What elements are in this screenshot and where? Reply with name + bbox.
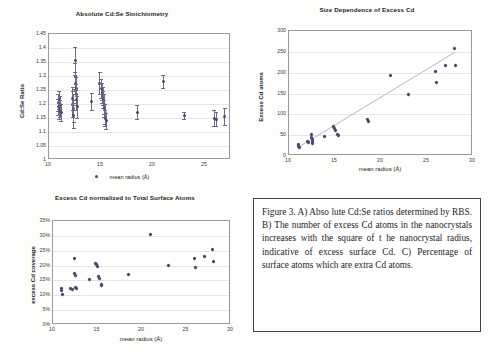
error-bar-cap: [59, 121, 63, 122]
x-axis-tick-label: 10: [285, 157, 291, 163]
error-bar-cap: [59, 104, 63, 105]
x-axis-tick-label: 20: [149, 161, 155, 167]
error-bar-cap: [103, 104, 107, 105]
chart-a-legend: mean radius (Å): [6, 173, 238, 180]
data-point: [202, 255, 206, 259]
chart-b-plot-area: 0501001502002503001015202530: [288, 30, 472, 155]
error-bar-cap: [98, 72, 102, 73]
data-point: [443, 63, 447, 67]
gridline: [53, 295, 229, 296]
error-bar-cap: [74, 77, 78, 78]
chart-panel-c: Excess Cd normalized to Total Surface At…: [6, 194, 244, 352]
data-point: [453, 63, 457, 67]
data-point: [211, 259, 215, 263]
data-point: [452, 47, 456, 51]
y-axis-tick-label: 200: [277, 69, 286, 75]
x-axis-tick-label: 30: [227, 326, 233, 332]
x-axis-tick-label: 25: [423, 157, 429, 163]
chart-a-legend-label: mean radius (Å): [110, 174, 150, 180]
data-point: [74, 287, 78, 291]
error-bar-cap: [100, 83, 104, 84]
error-bar-cap: [75, 118, 79, 119]
chart-c-y-axis-label: excess Cd coverage: [30, 234, 36, 316]
y-axis-tick-label: 1.4: [39, 44, 46, 50]
data-point: [72, 114, 75, 117]
y-axis-tick-label: 1.25: [36, 86, 46, 92]
legend-marker-icon: [95, 175, 98, 178]
error-bar-cap: [104, 113, 108, 114]
gridline: [289, 52, 471, 53]
gridline: [49, 48, 229, 49]
chart-c-title: Excess Cd normalized to Total Surface At…: [6, 194, 244, 201]
error-bar-cap: [182, 112, 186, 113]
gridline: [53, 236, 229, 237]
y-axis-tick-label: 250: [277, 48, 286, 54]
error-bar-cap: [161, 75, 165, 76]
y-axis-tick-label: 30%: [40, 232, 50, 238]
error-bar-cap: [90, 93, 94, 94]
y-axis-tick-label: 150: [277, 90, 286, 96]
figure-caption-box: Figure 3. A) Abso lute Cd:Se ratios dete…: [253, 198, 481, 332]
data-point: [105, 119, 108, 122]
chart-a-y-axis-label: Cd:Se Ratio: [19, 71, 25, 131]
x-axis-tick-label: 25: [183, 326, 189, 332]
data-point: [167, 263, 171, 267]
y-axis-tick-label: 10%: [40, 291, 50, 297]
data-point: [136, 111, 139, 114]
data-point: [388, 73, 392, 77]
error-bar-cap: [57, 91, 61, 92]
data-point: [183, 114, 186, 117]
y-axis-tick-label: 1.1: [39, 128, 46, 134]
gridline: [289, 114, 471, 115]
data-point: [297, 146, 301, 150]
data-point: [366, 119, 370, 123]
gridline: [53, 310, 229, 311]
error-bar-cap: [223, 125, 227, 126]
x-axis-tick-label: 20: [138, 326, 144, 332]
x-axis-tick-label: 10: [49, 326, 55, 332]
x-axis-tick-label: 15: [331, 157, 337, 163]
data-point: [72, 256, 76, 260]
chart-b-y-axis-label: Excess Cd atoms: [258, 61, 264, 133]
gridline: [289, 73, 471, 74]
y-axis-tick-label: 1.2: [39, 100, 46, 106]
data-point: [434, 81, 438, 85]
error-bar-cap: [101, 87, 105, 88]
gridline: [49, 132, 229, 133]
error-bar-cap: [102, 94, 106, 95]
y-axis-tick-label: 15%: [40, 276, 50, 282]
error-bar-cap: [73, 63, 77, 64]
error-bar-cap: [58, 96, 62, 97]
data-point: [76, 105, 79, 108]
data-point: [74, 59, 77, 62]
y-axis-tick-label: 25%: [40, 247, 50, 253]
data-point: [95, 265, 99, 269]
chart-b-title: Size Dependence of Excess Cd: [248, 6, 486, 13]
error-bar-cap: [74, 90, 78, 91]
chart-a-title: Absolute Cd:Se Stoichiometry: [6, 10, 238, 17]
error-bar-cap: [73, 72, 77, 73]
figure-page: Absolute Cd:Se Stoichiometry Cd:Se Ratio…: [0, 0, 490, 356]
data-point: [162, 80, 165, 83]
data-point: [73, 274, 77, 278]
error-bar-cap: [103, 110, 107, 111]
data-point: [192, 256, 196, 260]
data-point: [127, 272, 131, 276]
y-axis-tick-label: 1.3: [39, 72, 46, 78]
error-bar-cap: [212, 110, 216, 111]
error-bar-cap: [223, 108, 227, 109]
figure-caption-text: Figure 3. A) Abso lute Cd:Se ratios dete…: [262, 206, 472, 272]
y-axis-tick-label: 300: [277, 27, 286, 33]
error-bar-cap: [90, 110, 94, 111]
y-axis-tick-label: 1.15: [36, 114, 46, 120]
x-axis-tick-label: 30: [469, 157, 475, 163]
x-axis-tick-label: 15: [97, 161, 103, 167]
error-bar-cap: [101, 91, 105, 92]
error-bar-cap: [161, 88, 165, 89]
gridline: [53, 266, 229, 267]
gridline: [53, 280, 229, 281]
error-bar-cap: [214, 112, 218, 113]
error-bar-cap: [75, 96, 79, 97]
trend-line: [298, 52, 455, 148]
error-bar-cap: [102, 100, 106, 101]
